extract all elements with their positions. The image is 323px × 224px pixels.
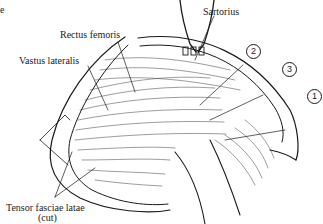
callout-3: 3 bbox=[282, 62, 297, 77]
partial-text: e bbox=[0, 4, 4, 15]
label-sartorius: Sartorius bbox=[203, 6, 239, 17]
illustration-drawing bbox=[0, 0, 323, 224]
label-rectus-femoris: Rectus femoris bbox=[60, 29, 120, 40]
label-tensor-cut: (cut) bbox=[38, 212, 57, 223]
callout-2: 2 bbox=[246, 44, 261, 59]
label-vastus-lateralis: Vastus lateralis bbox=[19, 55, 79, 66]
callout-1: 1 bbox=[307, 89, 322, 104]
anatomy-figure: e Rectus femoris Vastus lateralis Sartor… bbox=[0, 0, 323, 224]
